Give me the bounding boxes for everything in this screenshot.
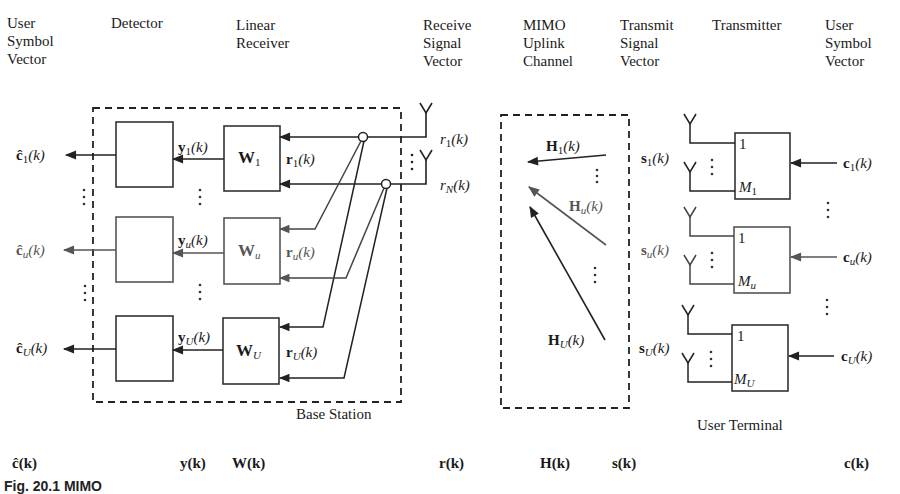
label-y-U: yU(k) (178, 328, 210, 350)
figure-caption: Fig. 20.1 MIMO (4, 478, 102, 494)
port-M-user-u: Mu (738, 272, 756, 294)
bottom-H: H(k) (540, 454, 570, 472)
label-c-hat-u: ĉu(k) (16, 241, 45, 263)
bottom-r: r(k) (439, 454, 464, 472)
label-s-u: su(k) (641, 241, 669, 263)
bottom-c-hat: ĉ(k) (12, 454, 37, 472)
label-H-u: Hu(k) (569, 197, 603, 219)
port-1-user-U: 1 (737, 327, 745, 345)
label-W-u: Wu (238, 242, 261, 264)
label-r-antenna-1: r1(k) (440, 130, 468, 152)
bottom-W: W(k) (232, 454, 265, 472)
base-station-label: Base Station (296, 405, 371, 423)
port-M-user-U: MU (734, 370, 754, 392)
split-node-N (382, 180, 391, 189)
port-1-user-u: 1 (738, 229, 746, 247)
label-W-U: WU (236, 342, 261, 364)
channel-arrow-U (530, 207, 605, 340)
label-s-1: s1(k) (641, 149, 669, 171)
label-c-hat-1: ĉ1(k) (16, 146, 45, 168)
split-node-1 (359, 133, 368, 142)
port-1-user-1: 1 (739, 135, 747, 153)
label-c-U: cU(k) (841, 347, 872, 369)
rx-antenna-1 (420, 103, 432, 113)
label-r-antenna-N: rN(k) (440, 176, 470, 198)
label-y-u: yu(k) (178, 231, 208, 253)
label-s-U: sU(k) (639, 339, 669, 361)
bottom-y: y(k) (180, 454, 206, 472)
bottom-c: c(k) (844, 454, 869, 472)
label-r-1: r1(k) (286, 150, 315, 172)
label-r-U: rU(k) (286, 343, 317, 365)
detector-box-1 (116, 122, 173, 187)
label-c-1: c1(k) (843, 154, 872, 176)
rx-antenna-N (420, 150, 432, 160)
port-M-user-1: M1 (739, 178, 757, 200)
label-y-1: y1(k) (178, 138, 208, 160)
detector-box-u (116, 217, 173, 282)
bottom-s: s(k) (612, 454, 636, 472)
label-c-u: cu(k) (843, 248, 872, 270)
label-H-1: H1(k) (546, 137, 580, 159)
label-c-hat-U: ĉU(k) (16, 339, 47, 361)
label-H-U: HU(k) (548, 331, 584, 353)
label-r-u: ru(k) (286, 243, 315, 265)
user-terminal-label: User Terminal (697, 416, 783, 434)
detector-box-U (116, 316, 173, 381)
label-W-1: W1 (238, 149, 261, 171)
